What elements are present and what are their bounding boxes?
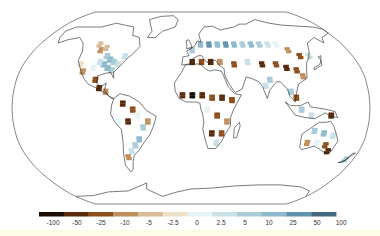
grid-cell	[208, 42, 211, 45]
colorbar-tick-label: 5	[243, 219, 247, 226]
grid-cell	[139, 136, 142, 139]
grid-cell	[132, 110, 135, 113]
grid-cell	[81, 61, 84, 64]
grid-cell	[83, 68, 86, 71]
grid-cell	[324, 130, 327, 133]
grid-cell	[291, 92, 294, 95]
grid-cell	[227, 118, 230, 121]
grid-cell	[324, 145, 327, 148]
grid-cell	[233, 42, 236, 45]
grid-cell	[118, 118, 121, 121]
grid-cell	[148, 121, 151, 124]
colorbar-tick-label: -2.5	[167, 219, 179, 226]
grid-cell	[234, 44, 237, 47]
grid-cell	[307, 140, 310, 143]
grid-cell	[232, 100, 235, 103]
grid-cell	[139, 139, 142, 142]
grid-cell	[104, 61, 107, 64]
grid-cell	[242, 44, 245, 47]
grid-cell	[217, 115, 220, 118]
coastline-japan	[314, 56, 322, 70]
colorbar-swatch	[237, 212, 262, 217]
grid-cell	[296, 67, 299, 70]
colorbar-tick-label: -5	[146, 219, 152, 226]
colorbar-swatch	[64, 212, 89, 217]
grid-cell	[107, 45, 110, 48]
grid-cell	[301, 110, 304, 113]
grid-cell	[192, 92, 195, 95]
grid-cell	[275, 61, 278, 64]
grid-cell	[288, 50, 291, 53]
grid-cell	[105, 48, 108, 51]
grid-cell	[241, 42, 244, 45]
grid-cell	[332, 136, 335, 139]
grid-cell	[259, 44, 262, 47]
grid-cell	[137, 115, 140, 118]
grid-cell	[100, 50, 103, 53]
grid-cell	[117, 64, 120, 67]
grid-cell	[221, 130, 224, 133]
grid-cell	[100, 59, 103, 62]
grid-cell	[221, 133, 224, 136]
grid-cell	[100, 42, 103, 45]
grid-cell	[287, 47, 290, 50]
grid-cell	[300, 56, 303, 59]
grid-cell	[266, 86, 269, 89]
grid-cell	[323, 133, 326, 136]
grid-cell	[212, 130, 215, 133]
grid-cell	[135, 142, 138, 145]
grid-cell	[276, 64, 279, 67]
grid-cell	[209, 44, 212, 47]
grid-cell	[217, 113, 220, 116]
grid-cell	[217, 44, 220, 47]
grid-cell	[192, 62, 195, 65]
grid-cell	[233, 61, 236, 64]
grid-cell	[125, 53, 128, 56]
coastline-greenland	[147, 16, 178, 38]
bottom-band	[0, 230, 380, 236]
grid-cell	[107, 53, 110, 56]
grid-cell	[135, 145, 138, 148]
colorbar-swatch	[113, 212, 138, 217]
grid-cell	[251, 44, 254, 47]
grid-cell	[143, 124, 146, 127]
grid-cell	[147, 118, 150, 121]
coastline-madagascar	[234, 122, 241, 138]
colorbar-swatch	[89, 212, 114, 217]
grid-cell	[216, 140, 219, 143]
grid-cell	[265, 83, 268, 86]
grid-cell	[220, 62, 223, 65]
grid-cell	[182, 95, 185, 98]
grid-cell	[297, 70, 300, 73]
colorbar-swatch	[311, 212, 336, 217]
grid-cell	[128, 118, 131, 121]
colorbar: -100-50-25-10-5-2.502.55102550100	[0, 208, 380, 230]
grid-cell	[192, 50, 195, 53]
grid-cell	[250, 42, 253, 45]
grid-cell	[317, 140, 320, 143]
colorbar-tick-label: -25	[96, 219, 106, 226]
grid-cell	[262, 64, 265, 67]
grid-cell	[328, 148, 331, 151]
grid-cell	[270, 80, 273, 83]
world-map	[0, 0, 380, 210]
grid-cell	[128, 121, 131, 124]
colorbar-swatch	[39, 212, 64, 217]
grid-cell	[296, 98, 299, 101]
colorbar-tick-label: -50	[72, 219, 82, 226]
grid-cell	[93, 65, 96, 68]
grid-cell	[201, 62, 204, 65]
grid-cell	[99, 62, 102, 65]
colorbar-swatch	[262, 212, 287, 217]
grid-cell	[118, 121, 121, 124]
grid-cell	[200, 44, 203, 47]
colorbar-swatch	[212, 212, 237, 217]
grid-cell	[316, 143, 319, 146]
grid-cell	[219, 59, 222, 62]
grid-cell	[226, 44, 229, 47]
grid-cell	[82, 71, 85, 74]
grid-cell	[287, 68, 290, 71]
grid-cell	[202, 95, 205, 98]
grid-cell	[137, 113, 140, 116]
coastline-africa	[174, 64, 241, 149]
